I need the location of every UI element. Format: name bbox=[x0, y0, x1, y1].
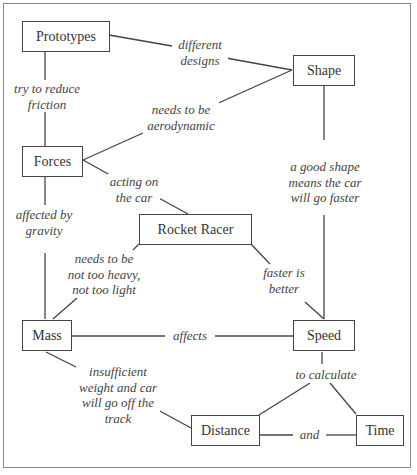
edge-label-acting-on-the-car: acting on the car bbox=[108, 174, 160, 205]
edge-label-faster-is-better: faster is better bbox=[258, 265, 310, 296]
node-mass: Mass bbox=[22, 320, 72, 351]
node-prototypes: Prototypes bbox=[22, 21, 110, 52]
edge-label-needs-aerodynamic: needs to be aerodynamic bbox=[143, 102, 219, 133]
node-shape: Shape bbox=[293, 55, 355, 86]
edge-label-try-to-reduce-friction: try to reduce friction bbox=[11, 81, 83, 112]
edge-label-good-shape: a good shape means the car will go faste… bbox=[285, 159, 365, 206]
node-speed: Speed bbox=[293, 320, 355, 351]
node-distance: Distance bbox=[191, 415, 260, 446]
edge-label-different-designs: different designs bbox=[172, 37, 228, 68]
edge-label-and: and bbox=[293, 427, 326, 443]
node-rocket-racer: Rocket Racer bbox=[139, 214, 252, 245]
node-time: Time bbox=[356, 415, 404, 446]
edge-label-to-calculate: to calculate bbox=[294, 367, 358, 383]
node-forces: Forces bbox=[22, 146, 83, 177]
edge-label-not-too-heavy: needs to be not too heavy, not too light bbox=[64, 251, 144, 298]
edge-label-affected-by-gravity: affected by gravity bbox=[12, 207, 76, 238]
edge-label-affects: affects bbox=[165, 328, 215, 344]
edge-label-insufficient-weight: insufficient weight and car will go off … bbox=[76, 364, 160, 426]
